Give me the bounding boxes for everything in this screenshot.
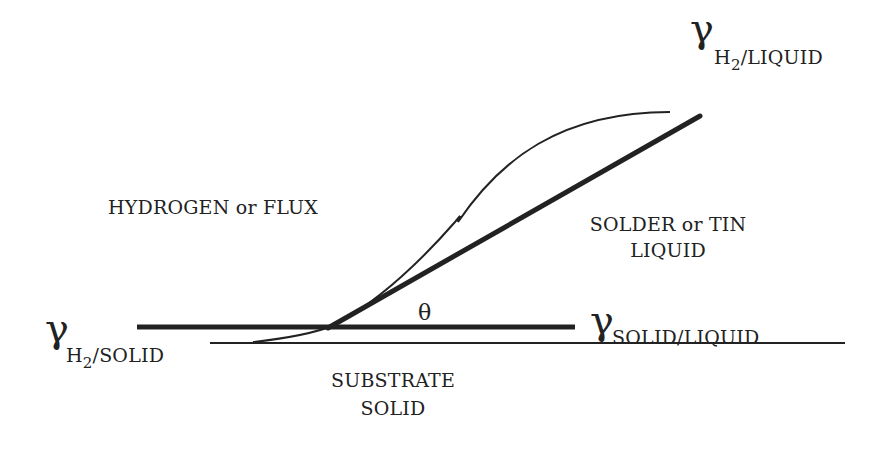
gamma-h2-solid-label: γ: [45, 308, 69, 348]
ambient-region-label: HYDROGEN or FLUX: [108, 196, 318, 218]
gamma-solid-liquid-label: γSOLID/LIQUID: [590, 300, 761, 340]
liquid-region-label: SOLDER or TIN LIQUID: [583, 213, 753, 261]
gamma-h2-liquid-label: γH2/LIQUID: [690, 8, 823, 48]
substrate-region-label: SUBSTRATE SOLID: [318, 369, 468, 419]
contact-angle-theta: θ: [418, 300, 431, 325]
gamma-h2-solid-subscript: H2/SOLID: [66, 344, 164, 366]
gamma-symbol: γ: [690, 5, 714, 51]
gamma-symbol: γ: [590, 297, 614, 343]
